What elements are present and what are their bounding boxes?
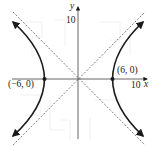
vertex-left-point [43, 77, 47, 81]
y-tick-label: 10 [66, 16, 76, 26]
vertex-left-label: (−6, 0) [8, 80, 34, 90]
vertex-right-label: (6, 0) [117, 66, 138, 76]
x-axis-label: x [144, 80, 148, 90]
y-axis-label: y [70, 2, 74, 12]
x-tick-label: 10 [131, 81, 141, 91]
vertex-right-point [111, 77, 115, 81]
